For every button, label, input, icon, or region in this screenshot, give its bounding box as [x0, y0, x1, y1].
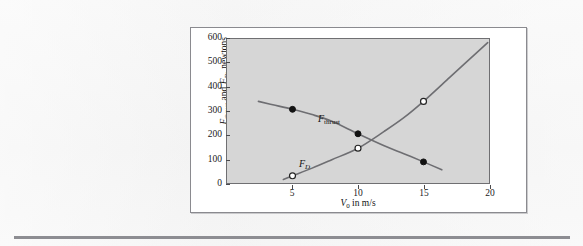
curve-fthrust [258, 101, 441, 169]
x-tick-mark [490, 185, 491, 189]
x-tick-mark [292, 185, 293, 189]
y-tick-label: 300 [192, 106, 222, 116]
plot-area [226, 38, 490, 184]
data-point-fthrust [290, 106, 296, 112]
y-tick-label: 100 [192, 155, 222, 165]
y-tick-label: 200 [192, 130, 222, 140]
plot-svg [227, 39, 489, 183]
x-tick-mark [424, 185, 425, 189]
data-point-fthrust [355, 131, 361, 137]
y-tick-mark [226, 111, 230, 112]
y-tick-mark [226, 87, 230, 88]
data-point-fthrust [421, 159, 427, 165]
x-axis-title: V0 in m/s [226, 198, 490, 210]
figure-panel: 0100200300400500600 Fthrust and FD, newt… [190, 27, 527, 213]
data-point-fd [290, 173, 296, 179]
y-axis-tick-labels: 0100200300400500600 [191, 38, 222, 184]
x-axis-units: in m/s [350, 198, 376, 208]
curve-fd [283, 43, 487, 180]
y-tick-label: 500 [192, 57, 222, 67]
y-tick-mark [226, 38, 230, 39]
y-tick-mark [226, 62, 230, 63]
y-tick-label: 600 [192, 33, 222, 43]
footer-rule [14, 236, 570, 239]
y-tick-mark [226, 160, 230, 161]
annotation-fd: FD [299, 159, 310, 171]
annotation-fthrust: Fthrust [318, 114, 340, 126]
annotation-fd-subscript: D [305, 163, 310, 171]
page-sheet: 0100200300400500600 Fthrust and FD, newt… [0, 0, 583, 246]
y-tick-label: 400 [192, 82, 222, 92]
y-tick-label: 0 [192, 179, 222, 189]
data-point-fd [355, 145, 361, 151]
y-tick-mark [226, 184, 230, 185]
annotation-fthrust-subscript: thrust [324, 118, 340, 126]
x-tick-mark [358, 185, 359, 189]
data-point-fd [421, 98, 427, 104]
y-tick-mark [226, 135, 230, 136]
